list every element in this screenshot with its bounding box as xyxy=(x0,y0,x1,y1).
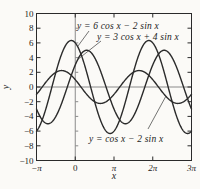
y-tick-label: 2 xyxy=(29,67,34,77)
curve-label-6cos-minus-2sin: y = 6 cos x − 2 sin x xyxy=(76,21,160,31)
y-tick-label: 0 xyxy=(29,82,34,92)
y-tick-label: 10 xyxy=(25,9,35,19)
trig-curves-plot: 1086420−2−4−6−8−10−π0π2π3π y = 6 cos x −… xyxy=(0,0,200,189)
y-tick-label: −4 xyxy=(24,111,34,121)
x-tick-label: 3π xyxy=(186,163,197,173)
curve-label-cos-minus-2sin: y = cos x − 2 sin x xyxy=(88,134,164,144)
y-tick-label: 4 xyxy=(29,53,34,63)
x-tick-label: 2π xyxy=(148,163,158,173)
x-tick-label: 0 xyxy=(73,163,78,173)
y-tick-label: 6 xyxy=(29,38,34,48)
y-tick-label: 8 xyxy=(29,23,34,33)
y-tick-label: −8 xyxy=(24,141,34,151)
x-tick-label: −π xyxy=(31,163,42,173)
x-axis-title: x xyxy=(111,170,117,181)
leader-line-series-0 xyxy=(78,31,89,46)
leader-line-series-2 xyxy=(148,96,166,129)
figure-canvas: 1086420−2−4−6−8−10−π0π2π3π y = 6 cos x −… xyxy=(0,0,200,189)
curve-label-3cos-plus-4sin: y = 3 cos x + 4 sin x xyxy=(96,32,180,42)
leader-line-series-1 xyxy=(77,41,101,60)
y-tick-label: −6 xyxy=(24,126,34,136)
y-axis-title: y xyxy=(0,84,11,90)
y-tick-label: −2 xyxy=(24,97,34,107)
